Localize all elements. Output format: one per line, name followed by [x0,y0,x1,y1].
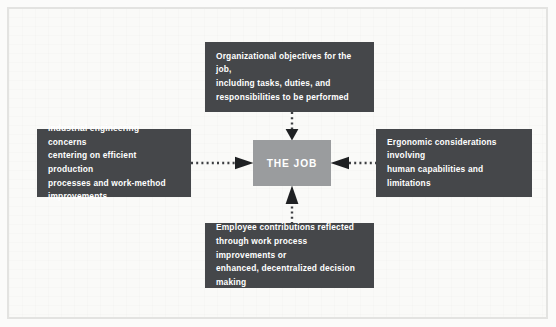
node-industrial-engineering: Industrial engineering concerns centerin… [37,129,191,197]
node-right-label: Ergonomic considerations involving human… [376,136,532,190]
node-ergonomic-considerations: Ergonomic considerations involving human… [376,129,532,197]
connector-bottom-to-center [284,185,300,224]
node-top-label: Organizational objectives for the job, i… [205,50,374,104]
node-the-job: THE JOB [253,140,331,186]
diagram-canvas: Organizational objectives for the job, i… [0,0,556,327]
node-organizational-objectives: Organizational objectives for the job, i… [205,42,374,112]
node-center-label: THE JOB [267,158,318,169]
node-bottom-label: Employee contributions reflected through… [205,221,374,289]
connector-top-to-center [284,112,300,141]
diagram-frame: Organizational objectives for the job, i… [7,7,548,319]
node-employee-contributions: Employee contributions reflected through… [205,223,374,288]
node-left-label: Industrial engineering concerns centerin… [37,122,191,204]
connector-left-to-center [191,155,254,171]
connector-right-to-center [330,155,377,171]
